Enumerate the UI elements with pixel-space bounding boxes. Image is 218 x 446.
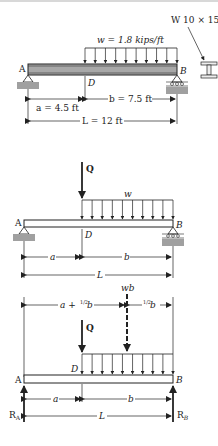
dim-b-label: b [124,252,130,262]
distributed-load-arrows [82,200,173,219]
i-beam-icon [201,62,217,78]
dim-b-label: b = 7.5 ft [109,94,153,104]
roller-support-b [166,75,188,94]
point-d-label: D [84,230,92,240]
dist-load-label: w [124,189,132,199]
load-label: w = 1.8 kips/ft [97,35,164,45]
reaction-b-label: RB [177,410,189,421]
point-d-label: D [70,364,78,374]
beam [24,375,173,383]
dim-right-suffix: b [150,300,156,310]
section-label: W 10 × 15 [171,15,218,25]
pin-support-a [13,227,35,241]
point-load-q-label: Q [86,323,94,333]
point-b-label: B [175,220,183,230]
beam [24,220,173,227]
figure-1: W 10 × 15 w = 1.8 kips/ft A B D [17,15,218,126]
figure-3: wb a + 1/2 b 1/2 b Q D A B a b L RA [9,283,189,422]
point-a-label: A [14,218,22,228]
dim-a-label: a [53,394,58,404]
dim-a-label: a [50,252,55,262]
figure-2: Q w A B D a b L [13,162,184,280]
dim-b-label: b [128,394,134,404]
dim-l-label: L [98,411,105,421]
point-b-label: B [175,375,183,385]
dim-left-suffix: b [87,300,93,310]
beam-diagrams: W 10 × 15 w = 1.8 kips/ft A B D [0,0,218,446]
dim-l-label: L [96,270,103,280]
point-b-label: B [179,66,187,76]
dim-l-label: L = 12 ft [82,116,123,126]
point-a-label: A [18,64,26,74]
point-a-label: A [14,375,22,385]
reaction-a-label: RA [9,410,21,421]
distributed-load-arrows [82,354,173,374]
point-load-q-label: Q [86,164,94,174]
dim-left-prefix: a + [60,300,76,310]
section-pointer [188,27,204,60]
distributed-load-arrows [85,48,177,63]
dim-a-label: a = 4.5 ft [36,103,79,113]
pin-support-a [17,75,39,89]
point-d-label: D [87,78,95,88]
beam [28,64,177,75]
resultant-label: wb [121,283,135,293]
